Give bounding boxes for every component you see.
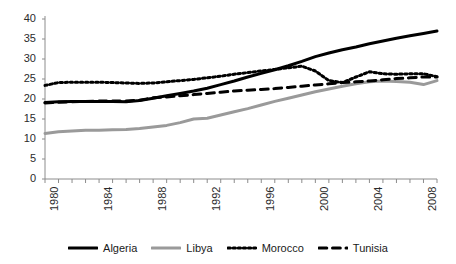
series-line-libya: [45, 81, 437, 134]
legend-swatch-algeria-icon: [68, 242, 98, 254]
legend-item-algeria[interactable]: Algeria: [68, 242, 137, 254]
legend-item-tunisia[interactable]: Tunisia: [318, 242, 388, 254]
legend-item-morocco[interactable]: Morocco: [227, 242, 304, 254]
legend-item-libya[interactable]: Libya: [151, 242, 212, 254]
legend-swatch-tunisia-icon: [318, 242, 348, 254]
line-chart-plot: [0, 0, 456, 264]
chart-legend: AlgeriaLibyaMoroccoTunisia: [0, 236, 456, 260]
legend-label: Libya: [186, 242, 212, 254]
legend-label: Tunisia: [353, 242, 388, 254]
legend-swatch-morocco-icon: [227, 242, 257, 254]
chart-container: 4035302520151050 19801984198819921996200…: [0, 0, 456, 264]
legend-label: Algeria: [103, 242, 137, 254]
legend-label: Morocco: [262, 242, 304, 254]
legend-swatch-libya-icon: [151, 242, 181, 254]
